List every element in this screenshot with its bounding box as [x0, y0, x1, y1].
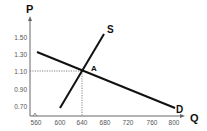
x-tick: 800 [169, 119, 180, 126]
x-tick: 560 [31, 119, 42, 126]
x-tick: 640 [77, 119, 88, 126]
y-tick: 0.90 [14, 86, 27, 93]
x-tick: 760 [147, 119, 158, 126]
y-tick: 1.10 [14, 68, 27, 75]
y-tick: 1.30 [14, 51, 27, 58]
supply-label: S [107, 24, 114, 35]
demand-line [37, 52, 175, 108]
p-axis-label: P [26, 3, 33, 15]
equilibrium-label: A [91, 64, 97, 73]
y-tick: 1.50 [14, 34, 27, 41]
q-axis-label: Q [190, 112, 199, 124]
y-tick: 0.70 [14, 103, 27, 110]
y-axis-arrow-icon [28, 16, 32, 21]
x-tick: 600 [55, 119, 66, 126]
x-tick: 680 [100, 119, 111, 126]
demand-label: D [176, 104, 183, 115]
x-tick: 720 [123, 119, 134, 126]
supply-demand-chart: P Q 1.50 1.30 1.10 0.90 0.70 560 600 640… [0, 0, 207, 131]
